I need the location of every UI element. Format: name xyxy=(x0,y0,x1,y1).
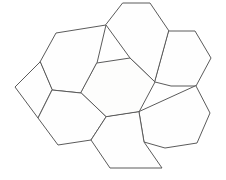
figure-canvas xyxy=(0,0,226,180)
hexagon-tiling-diagram xyxy=(0,0,226,180)
